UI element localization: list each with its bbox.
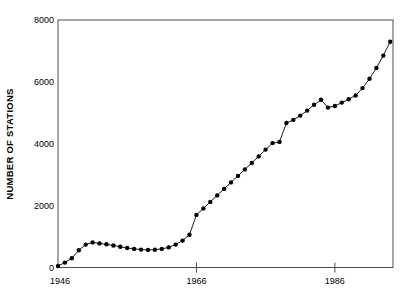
data-point [340,100,344,104]
data-point [360,86,364,90]
data-point [263,147,267,151]
data-point [194,213,198,217]
x-tick-label: 1966 [186,276,206,286]
data-series-line [58,42,390,266]
data-point [201,206,205,210]
data-point [305,108,309,112]
y-tick-label: 4000 [34,139,54,149]
x-tick-label: 1986 [325,276,345,286]
data-point [353,93,357,97]
data-point [90,240,94,244]
data-point [229,180,233,184]
data-point [298,113,302,117]
data-point [125,246,129,250]
chart-canvas: NUMBER OF STATIONS 020004000600080001966… [0,0,412,300]
y-tick-label: 0 [49,263,54,273]
chart-svg: NUMBER OF STATIONS 020004000600080001966… [0,0,412,300]
data-point [153,248,157,252]
data-point [56,264,60,268]
data-point [104,242,108,246]
y-tick-label: 8000 [34,15,54,25]
data-point [250,161,254,165]
data-point [388,40,392,44]
data-point [333,104,337,108]
data-point [118,245,122,249]
y-tick-label: 6000 [34,77,54,87]
data-point [167,245,171,249]
data-point [215,193,219,197]
data-point [312,103,316,107]
data-point [70,256,74,260]
data-point [347,97,351,101]
data-point [160,247,164,251]
data-point [111,243,115,247]
data-point [381,53,385,57]
x-tick-label: 1946 [50,276,70,286]
data-point [84,242,88,246]
data-point [187,233,191,237]
data-point [146,248,150,252]
data-point [132,247,136,251]
data-point [284,121,288,125]
data-point [257,154,261,158]
data-point [367,77,371,81]
y-axis-title: NUMBER OF STATIONS [4,88,15,199]
data-point [243,167,247,171]
data-point [222,187,226,191]
data-point [291,118,295,122]
data-point [63,260,67,264]
data-point [180,238,184,242]
data-point [236,174,240,178]
data-point [319,98,323,102]
data-point [277,140,281,144]
data-point [139,247,143,251]
data-point [326,105,330,109]
data-point [97,241,101,245]
data-point [374,66,378,70]
y-tick-label: 2000 [34,201,54,211]
data-point [270,141,274,145]
data-point [174,242,178,246]
data-point [208,200,212,204]
plot-border [58,20,393,268]
data-point [77,248,81,252]
